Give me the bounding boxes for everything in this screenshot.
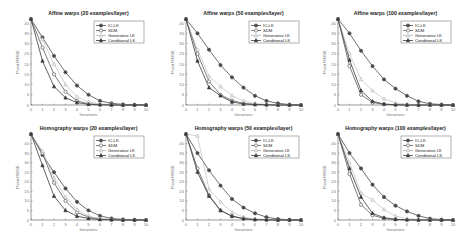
y-tick-label: 25 [24,170,29,175]
data-point-marker [196,59,199,62]
x-tick-label: 0 [30,222,33,227]
data-point-marker [359,89,362,92]
data-point-marker [196,152,199,155]
x-tick-label: 6 [254,222,257,227]
data-point-marker [41,164,44,167]
x-tick-label: 7 [110,222,113,227]
y-tick-label: 20 [179,62,184,67]
data-point-marker [382,208,385,211]
data-point-marker [382,195,385,198]
y-tick-label: 20 [24,179,29,184]
chart-title: Affine warps (20 examples/layer) [48,10,129,16]
chart-panel-2: Affine warps (50 examples/layer)01234567… [170,10,304,117]
data-point-marker [371,64,374,67]
data-point-marker [64,90,67,93]
data-point-marker [64,199,67,202]
legend-marker-icon [254,29,257,32]
x-tick-label: 8 [277,107,280,112]
x-tick-label: 1 [41,222,44,227]
data-point-marker [382,102,385,105]
data-point-marker [359,78,362,81]
x-tick-label: 4 [231,222,234,227]
y-tick-label: 15 [179,72,184,77]
x-tick-label: 0 [337,107,340,112]
data-point-marker [359,195,362,198]
y-tick-label: 10 [24,82,29,87]
x-tick-label: 2 [360,222,363,227]
legend-entry: Conditional LK [415,153,442,158]
x-tick-label: 7 [265,107,268,112]
y-tick-label: 25 [179,51,184,56]
chart-panel-1: Affine warps (20 examples/layer)01234567… [15,10,149,117]
x-tick-label: 10 [451,107,456,112]
data-point-marker [394,87,397,90]
legend: IC-LKSDMGenerative LKConditional LK [249,136,299,158]
x-tick-label: 5 [242,107,245,112]
data-point-marker [207,80,210,83]
y-tick-label: 20 [179,179,184,184]
x-axis-label: Iterations [79,112,98,117]
x-tick-label: 0 [30,107,33,112]
x-tick-label: 5 [394,107,397,112]
data-point-marker [359,49,362,52]
y-tick-label: 10 [331,82,336,87]
y-axis-label: Point RMSE [15,165,20,189]
x-tick-label: 6 [99,222,102,227]
data-point-marker [219,63,222,66]
data-point-marker [52,54,55,57]
y-axis-label: Point RMSE [170,165,175,189]
y-tick-label: 35 [179,151,184,156]
legend-entry: Conditional LK [263,153,290,158]
data-point-marker [207,188,210,191]
y-tick-label: 40 [179,21,184,26]
data-point-marker [359,167,362,170]
chart-title: Affine warps (50 examples/layer) [203,10,284,16]
x-tick-label: 1 [348,222,351,227]
y-tick-label: 10 [331,198,336,203]
legend-entry: Conditional LK [108,38,135,43]
legend: IC-LKSDMGenerative LKConditional LK [401,21,451,43]
x-tick-label: 9 [288,222,291,227]
y-tick-label: 5 [182,208,185,213]
y-tick-label: 25 [331,170,336,175]
chart-title: Homography warps (100 examples/layer) [345,125,446,131]
x-tick-label: 6 [406,107,409,112]
legend-marker-icon [406,139,409,142]
data-point-marker [52,181,55,184]
y-tick-label: 15 [24,72,29,77]
x-tick-label: 6 [254,107,257,112]
y-tick-label: 5 [27,208,30,213]
y-tick-label: 10 [179,198,184,203]
y-tick-label: 30 [331,41,336,46]
y-tick-label: 35 [24,31,29,36]
data-point-marker [219,184,222,187]
x-tick-label: 3 [371,222,374,227]
data-point-marker [394,204,397,207]
x-tick-label: 9 [440,107,443,112]
data-point-marker [75,200,78,203]
legend-marker-icon [406,144,409,147]
figure: Affine warps (20 examples/layer)01234567… [0,0,465,235]
y-tick-label: 5 [27,92,30,97]
data-point-marker [207,74,210,77]
x-axis-label: Iterations [386,227,405,232]
legend-marker-icon [254,144,257,147]
x-tick-label: 1 [348,107,351,112]
data-point-marker [371,198,374,201]
x-tick-label: 7 [110,107,113,112]
data-point-marker [348,64,351,67]
y-tick-label: 35 [24,151,29,156]
x-tick-label: 6 [406,222,409,227]
legend: IC-LKSDMGenerative LKConditional LK [249,21,299,43]
x-tick-label: 8 [277,222,280,227]
data-point-marker [64,187,67,190]
y-tick-label: 35 [331,31,336,36]
chart-panel-3: Affine warps (100 examples/layer)0123456… [322,10,456,117]
data-point-marker [348,173,351,176]
data-point-marker [41,46,44,49]
data-point-marker [230,197,233,200]
y-tick-label: 40 [24,21,29,26]
data-point-marker [394,217,397,220]
data-point-marker [348,161,351,164]
y-tick-label: 40 [24,141,29,146]
